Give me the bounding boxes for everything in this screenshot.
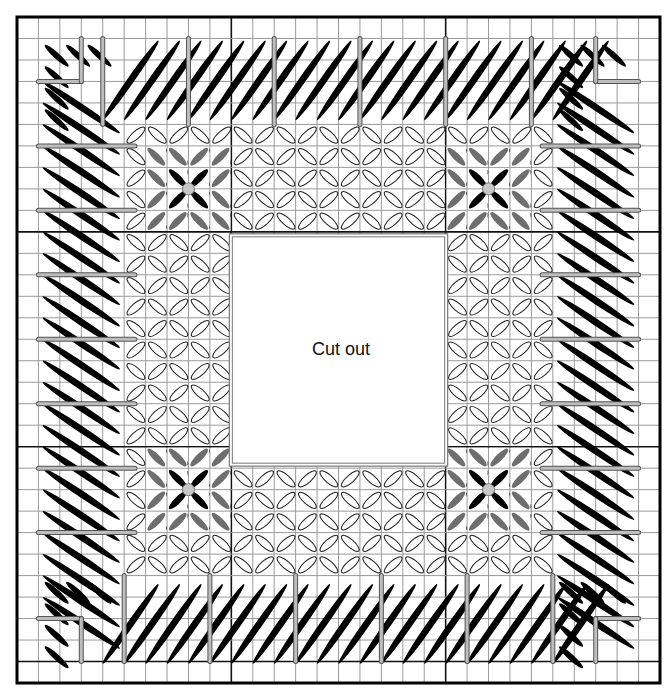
field-stitch — [404, 125, 426, 146]
field-stitch — [318, 469, 340, 490]
field-stitch — [125, 318, 147, 339]
field-stitch — [232, 554, 254, 575]
cutout-box — [229, 234, 447, 466]
field-stitch — [532, 254, 554, 275]
field-stitch — [189, 125, 211, 146]
field-stitch — [404, 189, 426, 210]
field-stitch — [489, 318, 511, 339]
field-stitch — [489, 426, 511, 447]
field-stitch — [189, 318, 211, 339]
field-stitch — [146, 275, 168, 296]
field-stitch — [511, 426, 533, 447]
field-stitch — [532, 146, 554, 167]
motif-center-dot — [182, 183, 194, 195]
field-stitch — [339, 533, 361, 554]
field-stitch — [532, 490, 554, 511]
field-stitch — [425, 168, 447, 189]
field-stitch — [125, 189, 147, 210]
field-stitch — [489, 275, 511, 296]
field-stitch — [404, 490, 426, 511]
field-stitch — [446, 404, 468, 425]
field-stitch — [382, 125, 404, 146]
field-stitch — [382, 490, 404, 511]
field-stitch — [532, 125, 554, 146]
field-stitch — [425, 469, 447, 490]
field-stitch — [489, 404, 511, 425]
field-stitch — [318, 211, 340, 232]
field-stitch — [296, 211, 318, 232]
field-stitch — [532, 426, 554, 447]
field-stitch — [339, 490, 361, 511]
corner-stitch — [600, 43, 628, 69]
field-stitch — [404, 168, 426, 189]
field-stitch — [382, 189, 404, 210]
field-stitch — [168, 383, 190, 404]
field-stitch — [425, 146, 447, 167]
field-stitch — [382, 211, 404, 232]
field-stitch — [232, 490, 254, 511]
field-stitch — [125, 426, 147, 447]
field-stitch — [125, 511, 147, 532]
field-stitch — [489, 340, 511, 361]
field-stitch — [146, 554, 168, 575]
field-stitch — [446, 383, 468, 404]
field-stitch — [275, 146, 297, 167]
field-stitch — [511, 297, 533, 318]
field-stitch — [532, 211, 554, 232]
field-stitch — [446, 275, 468, 296]
motif-center-dot — [483, 183, 495, 195]
field-stitch — [511, 254, 533, 275]
field-stitch — [275, 554, 297, 575]
field-stitch — [446, 125, 468, 146]
field-stitch — [511, 404, 533, 425]
field-stitch — [468, 404, 490, 425]
field-stitch — [189, 275, 211, 296]
field-stitch — [146, 361, 168, 382]
field-stitch — [253, 511, 275, 532]
field-stitch — [125, 168, 147, 189]
field-stitch — [425, 490, 447, 511]
field-stitch — [532, 189, 554, 210]
field-stitch — [146, 232, 168, 253]
field-stitch — [468, 554, 490, 575]
field-stitch — [253, 125, 275, 146]
field-stitch — [382, 554, 404, 575]
field-stitch — [318, 554, 340, 575]
field-stitch — [253, 469, 275, 490]
field-stitch — [168, 533, 190, 554]
field-stitch — [446, 254, 468, 275]
field-stitch — [361, 511, 383, 532]
field-stitch — [125, 232, 147, 253]
field-stitch — [211, 554, 233, 575]
field-stitch — [125, 447, 147, 468]
field-stitch — [404, 533, 426, 554]
field-stitch — [532, 469, 554, 490]
field-stitch — [339, 469, 361, 490]
field-stitch — [211, 125, 233, 146]
corner-stitch — [43, 623, 71, 649]
field-stitch — [361, 533, 383, 554]
field-stitch — [275, 168, 297, 189]
field-stitch — [211, 533, 233, 554]
field-stitch — [168, 297, 190, 318]
field-stitch — [489, 361, 511, 382]
field-stitch — [318, 146, 340, 167]
field-stitch — [511, 125, 533, 146]
field-stitch — [146, 340, 168, 361]
field-stitch — [146, 318, 168, 339]
field-stitch — [532, 533, 554, 554]
field-stitch — [253, 490, 275, 511]
field-stitch — [318, 511, 340, 532]
field-stitch — [253, 554, 275, 575]
field-stitch — [339, 146, 361, 167]
field-stitch — [532, 297, 554, 318]
field-stitch — [339, 554, 361, 575]
field-stitch — [339, 125, 361, 146]
field-stitch — [318, 168, 340, 189]
field-stitch — [296, 511, 318, 532]
field-stitch — [125, 404, 147, 425]
field-stitch — [189, 383, 211, 404]
field-stitch — [468, 426, 490, 447]
field-stitch — [146, 404, 168, 425]
field-stitch — [532, 404, 554, 425]
